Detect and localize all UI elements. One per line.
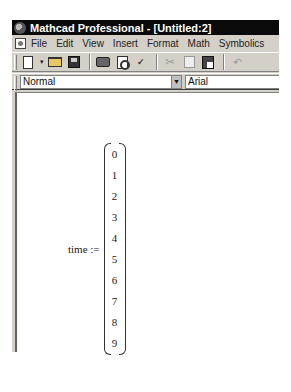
- save-button[interactable]: [66, 55, 82, 70]
- vector-element[interactable]: 3: [112, 211, 118, 224]
- new-dropdown-icon[interactable]: ▾: [39, 55, 45, 70]
- style-dropdown-arrow-icon[interactable]: ▼: [171, 75, 182, 89]
- paste-button[interactable]: [200, 55, 216, 70]
- vector-matrix[interactable]: 0 1 2 3 4 5 6 7 8 9: [104, 143, 126, 355]
- title-bar[interactable]: Mathcad Professional - [Untitled:2]: [12, 20, 279, 35]
- toolbar-separator: [89, 54, 91, 70]
- toolbar-grip[interactable]: [14, 76, 17, 91]
- toolbar-separator: [156, 54, 158, 70]
- cut-button[interactable]: ✂: [162, 55, 178, 70]
- vector-element[interactable]: 7: [112, 295, 118, 308]
- vector-element[interactable]: 4: [112, 232, 118, 245]
- vector-element[interactable]: 1: [112, 169, 118, 182]
- font-select[interactable]: Arial: [185, 75, 279, 89]
- spell-check-button[interactable]: ✓: [133, 55, 149, 70]
- style-select[interactable]: Normal: [20, 75, 171, 89]
- undo-button[interactable]: ↶: [229, 55, 245, 70]
- new-icon: [23, 56, 33, 69]
- menu-edit[interactable]: Edit: [56, 38, 73, 49]
- vector-element[interactable]: 8: [112, 316, 118, 329]
- mathcad-window: Mathcad Professional - [Untitled:2] File…: [12, 20, 279, 352]
- worksheet-area[interactable]: [15, 92, 279, 352]
- spell-check-icon: ✓: [137, 57, 145, 67]
- math-region-time-definition[interactable]: time := 0 1 2 3 4 5 6 7 8 9: [68, 143, 126, 355]
- copy-button[interactable]: [181, 55, 197, 70]
- variable-definition-label: time :=: [68, 243, 100, 255]
- standard-toolbar: ▾ ✓ ✂ ↶: [12, 52, 279, 72]
- print-preview-button[interactable]: [114, 55, 130, 70]
- vector-element[interactable]: 0: [112, 148, 118, 161]
- save-icon: [68, 56, 80, 68]
- style-value: Normal: [23, 76, 55, 87]
- menu-insert[interactable]: Insert: [113, 38, 138, 49]
- new-button[interactable]: [20, 55, 36, 70]
- font-value: Arial: [188, 76, 208, 87]
- open-button[interactable]: [47, 55, 63, 70]
- menu-view[interactable]: View: [82, 38, 104, 49]
- toolbar-separator: [223, 54, 225, 70]
- vector-element[interactable]: 2: [112, 190, 118, 203]
- paste-icon: [202, 56, 214, 69]
- vector-element[interactable]: 9: [112, 337, 118, 350]
- print-preview-icon: [117, 56, 128, 69]
- print-icon: [96, 57, 110, 67]
- open-icon: [48, 57, 62, 67]
- print-button[interactable]: [95, 55, 111, 70]
- formatting-toolbar: Normal ▼ Arial: [12, 73, 279, 90]
- vector-element[interactable]: 5: [112, 253, 118, 266]
- cut-icon: ✂: [165, 55, 175, 69]
- menu-file[interactable]: File: [31, 38, 47, 49]
- undo-icon: ↶: [233, 56, 242, 69]
- menu-format[interactable]: Format: [147, 38, 179, 49]
- copy-icon: [184, 56, 195, 68]
- menu-bar: File Edit View Insert Format Math Symbol…: [12, 36, 279, 51]
- menu-math[interactable]: Math: [188, 38, 210, 49]
- window-title: Mathcad Professional - [Untitled:2]: [30, 22, 212, 34]
- toolbar-grip[interactable]: [14, 55, 17, 70]
- mathcad-app-icon[interactable]: [14, 22, 26, 34]
- menu-symbolics[interactable]: Symbolics: [219, 38, 265, 49]
- document-icon[interactable]: [15, 38, 26, 49]
- vector-element[interactable]: 6: [112, 274, 118, 287]
